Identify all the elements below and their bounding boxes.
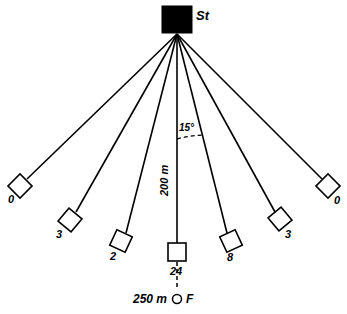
- source-station-box: [162, 6, 192, 33]
- focus-point-circle: [173, 295, 182, 304]
- receiver-label-r-left-2: 3: [56, 228, 62, 240]
- receiver-box-r-right-1: [220, 230, 243, 253]
- receiver-label-r-right-3: 0: [334, 194, 341, 206]
- angle-arc: [177, 135, 203, 139]
- ray-right-1: [177, 34, 227, 233]
- source-station-label: St: [196, 8, 210, 23]
- ray-right-3: [177, 34, 322, 179]
- ray-left-1: [126, 34, 177, 233]
- receiver-label-r-right-2: 3: [285, 228, 291, 240]
- vertical-distance-label: 200 m: [158, 165, 170, 197]
- receiver-label-r-left-3: 0: [8, 193, 15, 205]
- receiver-box-r-center: [168, 243, 186, 261]
- focus-distance-label: 250 m: [132, 292, 167, 306]
- ray-fan-diagram: St 15° 200 m 250 m F 0 3 2 24 8 3 0: [0, 0, 347, 314]
- receiver-label-r-center: 24: [169, 265, 182, 277]
- receiver-label-r-right-1: 8: [227, 251, 234, 263]
- receiver-box-r-left-1: [110, 230, 133, 253]
- focus-point-label: F: [186, 292, 194, 306]
- ray-left-3: [27, 34, 177, 179]
- receiver-group: [8, 174, 340, 261]
- diagram-canvas: St 15° 200 m 250 m F 0 3 2 24 8 3 0: [0, 0, 347, 314]
- angle-label: 15°: [179, 122, 195, 133]
- receiver-label-r-left-1: 2: [109, 250, 116, 262]
